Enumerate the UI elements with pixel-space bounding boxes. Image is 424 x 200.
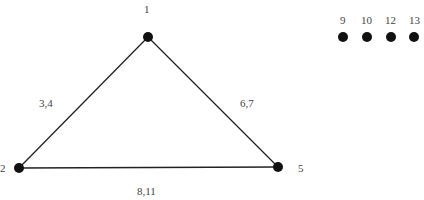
node-label-1: 1 <box>144 4 150 15</box>
graph-canvas <box>0 0 424 200</box>
node-13 <box>409 32 419 42</box>
edge-2-5 <box>19 167 278 168</box>
edge-label-2-5: 8,11 <box>137 186 156 197</box>
node-5 <box>273 162 283 172</box>
node-label-10: 10 <box>361 15 372 26</box>
node-10 <box>362 32 372 42</box>
node-12 <box>386 32 396 42</box>
edge-label-1-2: 3,4 <box>39 98 53 109</box>
edge-1-5 <box>148 37 278 167</box>
edge-label-1-5: 6,7 <box>240 98 254 109</box>
node-label-13: 13 <box>409 15 420 26</box>
node-label-2: 2 <box>0 163 6 174</box>
node-label-5: 5 <box>298 163 304 174</box>
node-label-12: 12 <box>385 15 396 26</box>
node-1 <box>143 32 153 42</box>
node-9 <box>338 32 348 42</box>
node-label-9: 9 <box>340 15 346 26</box>
node-2 <box>14 163 24 173</box>
